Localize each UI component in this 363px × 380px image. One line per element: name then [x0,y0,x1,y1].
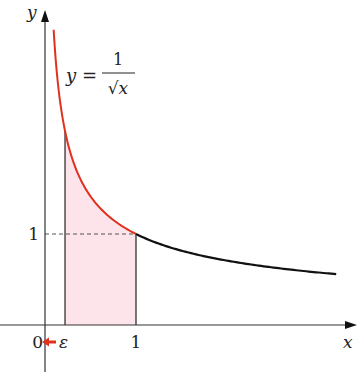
curve-series-black [136,234,336,274]
function-label-lhs: y = [65,65,97,86]
epsilon-arrow-left-icon [42,338,56,347]
x-tick-label-1: 1 [131,332,142,352]
y-axis-arrowhead [41,10,49,22]
epsilon-label: ε [59,332,68,352]
function-label-denominator: √x [108,78,129,98]
x-axis-arrowhead [345,321,357,329]
function-label: y = 1 √x [65,50,135,98]
x-tick-label-0: 0 [32,332,43,352]
chart: y x 0 1 1 ε y = 1 √x [0,0,363,380]
y-axis-label: y [26,2,37,22]
x-axis-label: x [343,332,353,352]
function-label-numerator: 1 [113,50,123,69]
y-tick-label-1: 1 [28,224,39,244]
